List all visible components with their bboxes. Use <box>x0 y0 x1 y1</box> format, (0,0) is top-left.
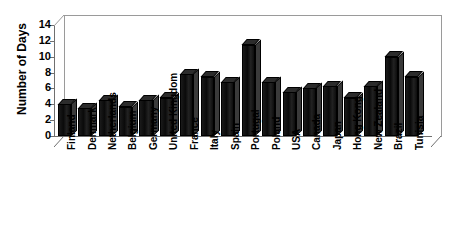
y-tick-label: 8 <box>45 68 51 77</box>
y-tick-label: 10 <box>39 52 51 61</box>
x-tick-label: France <box>190 117 200 150</box>
x-tick-label: Denmark <box>88 107 98 150</box>
x-tick-label: Germany <box>149 107 159 150</box>
x-tick-label: Italy <box>210 130 220 150</box>
x-tick-label: Belgium <box>128 111 138 150</box>
x-tick-label: Poland <box>272 117 282 150</box>
y-tick-label: 2 <box>45 115 51 124</box>
y-tick-label: 4 <box>45 99 51 108</box>
y-axis-title: Number of Days <box>15 9 29 129</box>
bar <box>201 77 214 136</box>
x-tick-label: Japan <box>333 121 343 150</box>
x-tick-label: Finland <box>67 114 77 150</box>
y-tick-label: 12 <box>39 36 51 45</box>
x-tick-label: New Zealand <box>374 89 384 150</box>
x-tick-label: Hong Kong <box>353 96 363 150</box>
x-tick-label: Tunisia <box>415 116 425 150</box>
bar-chart: Number of Days 02468101214 FinlandDenmar… <box>0 0 458 251</box>
x-tick-label: Spain <box>231 123 241 150</box>
x-tick-label: Portugal <box>251 109 261 150</box>
x-tick-label: Canada <box>312 114 322 150</box>
bar-front-face <box>201 77 214 136</box>
y-tick-label: 14 <box>39 20 51 29</box>
x-tick-label: Netherlands <box>108 92 118 150</box>
bar-side-face <box>214 72 220 136</box>
x-tick-label: Brazil <box>394 123 404 150</box>
x-tick-label: United Kingdom <box>169 73 179 150</box>
x-axis-labels: FinlandDenmarkNetherlandsBelgiumGermanyU… <box>54 150 454 250</box>
y-tick-label: 6 <box>45 83 51 92</box>
x-tick-label: USA <box>292 129 302 150</box>
plot-3d-bottom-right-edge <box>431 136 443 149</box>
y-tick-label: 0 <box>45 131 51 140</box>
